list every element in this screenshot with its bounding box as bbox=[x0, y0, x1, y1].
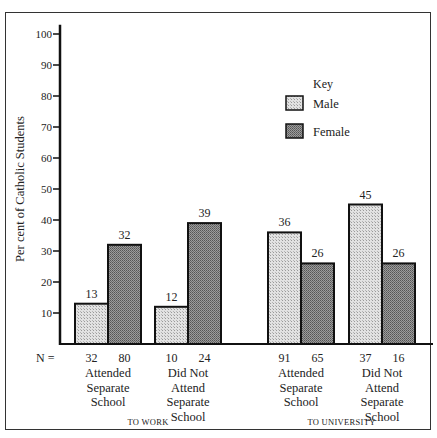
n-label: N = bbox=[36, 351, 55, 365]
bar-value-label: 12 bbox=[166, 290, 178, 304]
n-value: 10 bbox=[166, 351, 178, 365]
n-value: 32 bbox=[86, 351, 98, 365]
bar-value-label: 36 bbox=[279, 215, 291, 229]
legend-title: Key bbox=[313, 77, 333, 91]
y-tick-label: 70 bbox=[41, 121, 53, 133]
bar-female bbox=[382, 263, 415, 344]
category-label: Did Not bbox=[362, 366, 403, 380]
y-tick-label: 10 bbox=[41, 307, 53, 319]
legend: KeyMaleFemale bbox=[286, 77, 350, 139]
legend-label-male: Male bbox=[313, 97, 339, 111]
legend-label-female: Female bbox=[313, 125, 350, 139]
y-tick-label: 80 bbox=[41, 90, 53, 102]
bar-female bbox=[301, 263, 334, 344]
bar-male bbox=[268, 232, 301, 344]
y-tick-label: 30 bbox=[41, 245, 53, 257]
bar-chart: 102030405060708090100Per cent of Catholi… bbox=[0, 0, 437, 438]
category-label: School bbox=[91, 395, 126, 409]
legend-swatch-female bbox=[286, 124, 303, 138]
category-label: Attend bbox=[365, 381, 400, 395]
n-value: 24 bbox=[199, 351, 211, 365]
category-label: Separate bbox=[166, 395, 209, 409]
category-label: School bbox=[284, 395, 319, 409]
legend-swatch-male bbox=[286, 96, 303, 110]
y-tick-label: 60 bbox=[41, 152, 53, 164]
category-label: Attended bbox=[278, 366, 325, 380]
bar-value-label: 32 bbox=[119, 228, 131, 242]
category-label: Attended bbox=[85, 366, 132, 380]
category-label: Separate bbox=[279, 381, 322, 395]
category-label: School bbox=[171, 410, 206, 424]
y-tick-label: 50 bbox=[41, 183, 53, 195]
y-tick-label: 20 bbox=[41, 276, 53, 288]
n-value: 16 bbox=[393, 351, 405, 365]
category-label: Separate bbox=[86, 381, 129, 395]
bar-value-label: 26 bbox=[393, 246, 405, 260]
bar-value-label: 39 bbox=[199, 206, 211, 220]
category-label: Separate bbox=[360, 395, 403, 409]
group-label: TO WORK bbox=[127, 417, 169, 427]
category-label: Did Not bbox=[168, 366, 209, 380]
n-value: 80 bbox=[119, 351, 131, 365]
y-tick-label: 100 bbox=[36, 28, 53, 40]
bar-value-label: 45 bbox=[360, 188, 372, 202]
y-axis-label: Per cent of Catholic Students bbox=[13, 116, 27, 262]
n-value: 91 bbox=[279, 351, 291, 365]
bar-value-label: 13 bbox=[86, 287, 98, 301]
bar-male bbox=[75, 304, 108, 344]
bar-female bbox=[108, 245, 141, 344]
bar-female bbox=[188, 223, 221, 344]
n-value: 65 bbox=[312, 351, 324, 365]
y-tick-label: 40 bbox=[41, 214, 53, 226]
group-label: TO UNIVERSITY bbox=[307, 417, 375, 427]
y-tick-label: 90 bbox=[41, 59, 53, 71]
bar-male bbox=[349, 205, 382, 345]
n-value: 37 bbox=[360, 351, 372, 365]
category-label: Attend bbox=[171, 381, 206, 395]
bar-male bbox=[155, 307, 188, 344]
bar-value-label: 26 bbox=[312, 246, 324, 260]
bars bbox=[75, 205, 415, 345]
